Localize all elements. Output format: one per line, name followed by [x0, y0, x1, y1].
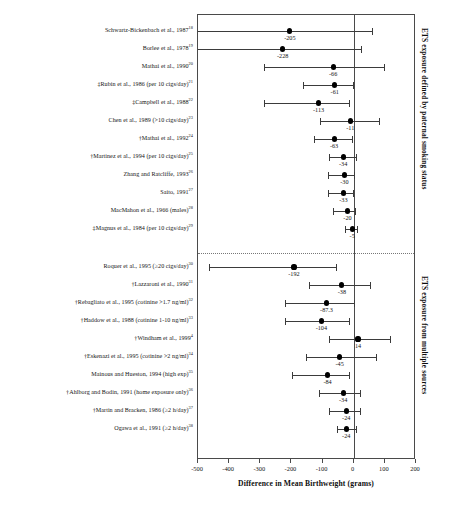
- ci-lower-cap: [333, 208, 334, 215]
- ci-lower-cap: [328, 190, 329, 197]
- x-axis-tick-label: 200: [410, 464, 420, 473]
- ci-lower-cap: [309, 282, 310, 289]
- ci-lower-cap: [285, 300, 286, 307]
- point-estimate-marker: [345, 208, 350, 213]
- study-label: ‡Rubin et al., 1986 (per 10 cigs/day)21: [0, 81, 193, 88]
- study-label: Schwartz-Bickenbach et al., 198718: [0, 27, 193, 34]
- x-axis-tick: [384, 459, 385, 463]
- forest-plot-figure: Schwartz-Bickenbach et al., 198718Borlee…: [0, 0, 456, 508]
- point-estimate-value: -63: [330, 142, 338, 150]
- point-estimate-value: -24: [342, 414, 350, 422]
- point-estimate-marker: [316, 100, 321, 105]
- point-estimate-marker: [331, 64, 336, 69]
- point-estimate-marker: [355, 336, 360, 341]
- confidence-interval-bar: [264, 67, 385, 68]
- point-estimate-value: -20: [343, 214, 351, 222]
- confidence-interval-bar: [209, 267, 336, 268]
- ci-upper-cap: [354, 172, 355, 179]
- point-estimate-value: -113: [313, 106, 324, 114]
- point-estimate-value: -228: [277, 52, 288, 60]
- study-label: †Eskenazi et al., 1995 (cotinine >2 ng/m…: [0, 353, 193, 360]
- ci-upper-cap: [370, 282, 371, 289]
- ci-upper-cap: [355, 208, 356, 215]
- ci-lower-cap: [209, 264, 210, 271]
- study-label: Zhang and Ratcliffe, 199326: [0, 171, 193, 178]
- ci-upper-cap: [356, 154, 357, 161]
- ci-upper-cap: [353, 82, 354, 89]
- confidence-interval-bar: [285, 321, 349, 322]
- point-estimate-marker: [342, 172, 347, 177]
- confidence-interval-bar: [264, 103, 350, 104]
- point-estimate-value: -38: [338, 288, 346, 296]
- study-reference-superscript: 4: [191, 332, 193, 337]
- study-label: †Mathai et al., 199224: [0, 135, 193, 142]
- ci-lower-cap: [328, 172, 329, 179]
- study-label: ‡Magnus et al., 1984 (per 10 cigs/day)29: [0, 225, 193, 232]
- study-label: MacMahon et al., 1966 (males)28: [0, 207, 193, 214]
- point-estimate-value: -192: [288, 270, 299, 278]
- study-reference-superscript: 21: [189, 78, 193, 83]
- study-label: †Ahlborg and Bodin, 1991 (home exposure …: [0, 389, 193, 396]
- study-reference-superscript: 23: [189, 114, 193, 119]
- ci-upper-cap: [361, 46, 362, 53]
- x-axis-tick: [415, 459, 416, 463]
- study-reference-superscript: 24: [189, 132, 193, 137]
- study-label: Chen et al., 1989 (>10 cigs/day)23: [0, 117, 193, 124]
- x-axis-tick: [228, 459, 229, 463]
- point-estimate-value: -104: [316, 324, 327, 332]
- x-axis-tick: [259, 459, 260, 463]
- point-estimate-marker: [332, 82, 337, 87]
- group-caption: ETS exposure from multiple sources: [420, 276, 428, 394]
- x-axis-tick: [322, 459, 323, 463]
- ci-upper-cap: [352, 136, 353, 143]
- point-estimate-value: -205: [284, 34, 295, 42]
- study-label: ‡Campbell et al., 198822: [0, 99, 193, 106]
- point-estimate-value: -84: [323, 378, 331, 386]
- group-divider-line: [198, 253, 414, 254]
- study-label: †Haddow et al., 1988 (cotinine 1-10 ng/m…: [0, 317, 193, 324]
- ci-upper-cap: [349, 318, 350, 325]
- point-estimate-value: -30: [340, 178, 348, 186]
- point-estimate-marker: [341, 190, 346, 195]
- study-reference-superscript: 35: [189, 368, 193, 373]
- study-reference-superscript: 27: [189, 186, 193, 191]
- study-reference-superscript: 34: [189, 350, 193, 355]
- x-axis-tick-label: -300: [253, 464, 265, 473]
- point-estimate-value: -61: [331, 88, 339, 96]
- ci-lower-cap: [264, 64, 265, 71]
- study-label: Mathai et al., 199020: [0, 63, 193, 70]
- point-estimate-marker: [319, 318, 324, 323]
- x-axis-tick-label: 100: [379, 464, 389, 473]
- ci-upper-cap: [360, 408, 361, 415]
- study-reference-superscript: 29: [189, 222, 193, 227]
- confidence-interval-bar: [319, 393, 360, 394]
- study-label: Roquer et al., 1995 (≥20 cigs/day)30: [0, 263, 193, 270]
- ci-upper-cap: [349, 100, 350, 107]
- ci-lower-cap: [292, 372, 293, 379]
- study-reference-superscript: 26: [189, 168, 193, 173]
- study-label: †Martin and Bracken, 1986 (≥2 h/day)37: [0, 407, 193, 414]
- study-reference-superscript: 20: [189, 60, 193, 65]
- study-reference-superscript: 38: [189, 422, 193, 427]
- point-estimate-marker: [348, 118, 353, 123]
- ci-upper-cap: [360, 390, 361, 397]
- x-axis-tick: [197, 459, 198, 463]
- study-label: †Windham et al., 19994: [0, 335, 193, 342]
- ci-upper-cap: [379, 118, 380, 125]
- x-axis-tick: [353, 459, 354, 463]
- ci-lower-cap: [306, 354, 307, 361]
- x-axis-tick: [290, 459, 291, 463]
- x-axis-tick-label: -500: [191, 464, 203, 473]
- ci-lower-cap: [285, 318, 286, 325]
- group-caption: ETS exposure defined by paternal smoking…: [420, 28, 428, 189]
- point-estimate-marker: [350, 226, 355, 231]
- ci-upper-cap: [356, 426, 357, 433]
- point-estimate-value: -5: [350, 232, 355, 240]
- x-axis-tick-label: 0: [351, 464, 354, 473]
- ci-lower-cap: [329, 408, 330, 415]
- ci-lower-cap: [264, 100, 265, 107]
- ci-upper-cap: [384, 64, 385, 71]
- study-reference-superscript: 28: [189, 204, 193, 209]
- ci-lower-cap: [314, 136, 315, 143]
- study-reference-superscript: 36: [189, 386, 193, 391]
